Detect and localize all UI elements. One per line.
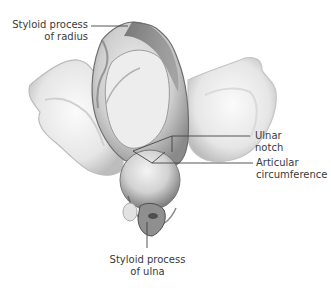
- label-articular-circumference: Articular circumference: [256, 157, 331, 181]
- label-line: Ulnar: [255, 130, 325, 142]
- label-line: Styloid process: [105, 254, 190, 266]
- label-line: Styloid process: [10, 19, 88, 31]
- label-line: Articular: [256, 157, 331, 169]
- label-line: of ulna: [105, 266, 190, 278]
- label-ulnar-notch: Ulnar notch: [255, 130, 325, 154]
- label-styloid-process-of-ulna: Styloid process of ulna: [105, 254, 190, 278]
- label-line: notch: [255, 142, 325, 154]
- label-styloid-process-of-radius: Styloid process of radius: [10, 19, 88, 43]
- label-line: of radius: [10, 31, 88, 43]
- label-line: circumference: [256, 169, 331, 181]
